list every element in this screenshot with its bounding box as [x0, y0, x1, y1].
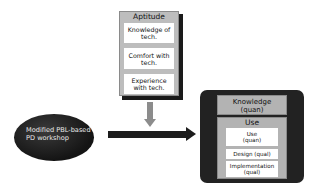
aptitude-item-experience: Experiencewith tech.	[124, 74, 174, 94]
aptitude-item-knowledge: Knowledge oftech.	[124, 23, 174, 43]
main-arrow-head-icon	[186, 127, 196, 141]
aptitude-item-knowledge-line2: tech.	[141, 33, 157, 40]
use-item-use: Use(quan)	[226, 128, 278, 146]
use-item-design-line1: Design (qual)	[233, 151, 271, 157]
moderator-arrow-head-icon	[144, 119, 156, 127]
use-item-design: Design (qual)	[226, 149, 278, 159]
workshop-label-line2: PD workshop	[26, 134, 69, 142]
use-item-implementation-line1: Implementation	[230, 163, 274, 169]
moderator-arrow-shaft	[147, 102, 153, 120]
aptitude-item-comfort: Comfort withtech.	[124, 48, 174, 69]
aptitude-title: Aptitude	[120, 12, 178, 21]
use-item-use-line2: (quan)	[243, 137, 261, 143]
knowledge-method: (quan)	[240, 106, 263, 114]
aptitude-box: Aptitude Knowledge oftech. Comfort witht…	[119, 11, 179, 96]
aptitude-item-comfort-line1: Comfort with	[129, 52, 170, 59]
workshop-label: Modified PBL-based PD workshop	[26, 127, 91, 142]
aptitude-item-knowledge-line1: Knowledge of	[128, 26, 171, 33]
use-item-implementation-line2: (qual)	[244, 169, 260, 175]
aptitude-item-experience-line1: Experience	[131, 77, 166, 84]
knowledge-label: Knowledge	[233, 98, 271, 106]
use-item-implementation: Implementation(qual)	[226, 161, 278, 177]
use-item-use-line1: Use	[247, 131, 257, 137]
aptitude-item-experience-line2: with tech.	[133, 84, 164, 91]
use-box: Use Use(quan) Design (qual) Implementati…	[217, 117, 287, 179]
knowledge-box: Knowledge (quan)	[217, 95, 287, 115]
workshop-ellipse: Modified PBL-based PD workshop	[14, 114, 94, 161]
use-title: Use	[218, 118, 286, 127]
aptitude-item-comfort-line2: tech.	[141, 59, 157, 66]
main-arrow-shaft	[108, 131, 188, 138]
